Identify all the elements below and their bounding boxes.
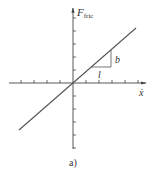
triangle-label-vertical: b [115, 54, 120, 65]
y-axis-label: Ffric [76, 6, 93, 20]
friction-line [19, 28, 136, 130]
y-axis-label-subscript: fric [84, 12, 94, 20]
triangle-label-horizontal: l [98, 69, 101, 80]
figure-caption: a) [69, 157, 77, 169]
x-axis-label: ẋ [138, 87, 144, 98]
friction-diagram: b l ẋ Ffric a) [0, 0, 156, 172]
